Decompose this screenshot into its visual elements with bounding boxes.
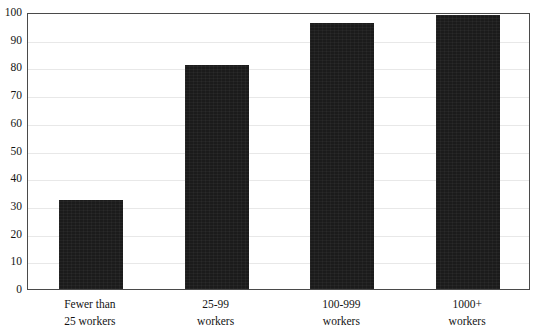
x-tick-label-line: 1000+: [404, 296, 530, 313]
bar: [59, 200, 123, 289]
x-tick-label-line: workers: [279, 313, 405, 330]
bar: [185, 65, 249, 289]
x-tick-label-line: 100-999: [279, 296, 405, 313]
x-tick-label: Fewer than25 workers: [27, 296, 153, 330]
y-tick-label: 80: [11, 63, 23, 75]
y-tick-label: 20: [11, 229, 23, 241]
y-tick-label: 0: [16, 284, 22, 296]
x-tick-label: 25-99workers: [153, 296, 279, 330]
y-tick-label: 30: [11, 201, 23, 213]
bar: [310, 23, 374, 289]
x-tick-label-line: workers: [153, 313, 279, 330]
bar-chart: 0102030405060708090100 Fewer than25 work…: [0, 0, 542, 334]
x-tick-label-line: Fewer than: [27, 296, 153, 313]
bars-layer: [28, 14, 529, 289]
y-tick-label: 50: [11, 146, 23, 158]
y-tick-label: 40: [11, 173, 23, 185]
x-tick-label-line: workers: [404, 313, 530, 330]
x-axis: Fewer than25 workers25-99workers100-999w…: [27, 296, 530, 334]
y-tick-label: 100: [5, 7, 22, 19]
y-tick-label: 70: [11, 90, 23, 102]
plot-area: [27, 13, 530, 290]
x-tick-label-line: 25-99: [153, 296, 279, 313]
y-tick-label: 60: [11, 118, 23, 130]
x-tick-label-line: 25 workers: [27, 313, 153, 330]
cropped-title-remnant: [0, 0, 542, 6]
x-tick-label: 1000+workers: [404, 296, 530, 330]
y-tick-label: 10: [11, 257, 23, 269]
y-tick-label: 90: [11, 35, 23, 47]
bar: [436, 15, 500, 289]
y-axis: 0102030405060708090100: [0, 0, 27, 334]
x-tick-label: 100-999workers: [279, 296, 405, 330]
